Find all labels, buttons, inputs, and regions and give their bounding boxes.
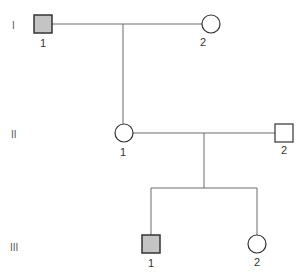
individual-label-II-2: 2 xyxy=(281,144,287,156)
generation-label-II: II xyxy=(11,129,17,140)
individual-II-2-male xyxy=(275,124,293,142)
individual-III-1-affected-male xyxy=(142,235,160,253)
individual-label-I-1: 1 xyxy=(40,37,46,49)
pedigree-chart: I II III 1 2 1 2 1 2 xyxy=(0,0,307,280)
generation-label-I: I xyxy=(12,20,15,31)
individual-I-1-affected-male xyxy=(34,15,52,33)
individual-II-1-female xyxy=(115,124,133,142)
individual-label-I-2: 2 xyxy=(200,36,206,48)
individual-label-II-1: 1 xyxy=(120,146,126,158)
individual-I-2-female xyxy=(202,15,220,33)
individual-label-III-1: 1 xyxy=(148,257,154,269)
individual-III-2-female xyxy=(248,235,266,253)
generation-label-III: III xyxy=(10,242,18,253)
individual-label-III-2: 2 xyxy=(254,256,260,268)
